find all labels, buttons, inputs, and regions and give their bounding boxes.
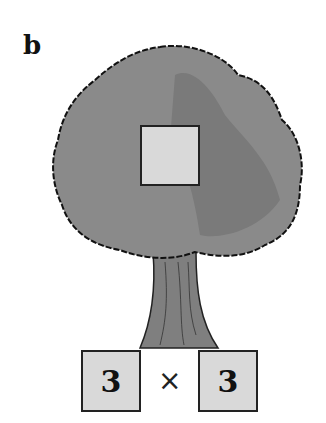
tree-trunk (140, 252, 218, 348)
left-factor-box[interactable]: 3 (81, 350, 141, 412)
top-product-box[interactable] (140, 125, 200, 186)
multiply-operator: × (158, 364, 181, 397)
tree-illustration (0, 0, 326, 423)
right-factor-box[interactable]: 3 (198, 350, 258, 412)
